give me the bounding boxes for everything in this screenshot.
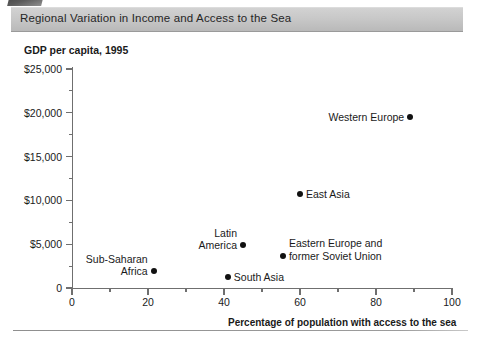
x-tick-label: 20 <box>142 296 154 308</box>
data-point-label: Latin America <box>198 226 237 251</box>
x-tick-major <box>375 288 376 295</box>
x-tick-minor <box>185 288 186 292</box>
x-tick-label: 0 <box>69 296 75 308</box>
data-point-label: Sub-Saharan Africa <box>86 252 148 277</box>
x-tick-label: 40 <box>218 296 230 308</box>
bottom-divider <box>13 330 468 331</box>
y-tick-label: $10,000 <box>24 194 62 206</box>
data-point-label: East Asia <box>306 188 350 201</box>
data-point[interactable] <box>151 268 157 274</box>
x-tick-label: 60 <box>294 296 306 308</box>
y-tick-minor <box>69 266 73 267</box>
x-tick-minor <box>337 288 338 292</box>
y-tick-major <box>66 112 73 113</box>
data-point[interactable] <box>297 191 303 197</box>
x-tick-major <box>147 288 148 295</box>
y-tick-major <box>66 200 73 201</box>
x-tick-major <box>223 288 224 295</box>
y-tick-label: 0 <box>56 282 62 294</box>
x-tick-major <box>71 288 72 295</box>
y-tick-label: $5,000 <box>30 238 62 250</box>
scatter-chart: GDP per capita, 1995 0$5,000$10,000$15,0… <box>0 0 483 344</box>
data-point-label: Eastern Europe and former Soviet Union <box>289 237 382 262</box>
x-tick-major <box>451 288 452 295</box>
y-tick-label: $20,000 <box>24 107 62 119</box>
y-tick-minor <box>69 222 73 223</box>
x-axis-title: Percentage of population with access to … <box>228 317 456 328</box>
x-tick-minor <box>109 288 110 292</box>
y-axis-title: GDP per capita, 1995 <box>24 44 128 56</box>
y-tick-label: $25,000 <box>24 63 62 75</box>
x-tick-minor <box>261 288 262 292</box>
y-tick-label: $15,000 <box>24 151 62 163</box>
data-point[interactable] <box>225 274 231 280</box>
data-point[interactable] <box>280 253 286 259</box>
data-point-label: South Asia <box>234 270 284 283</box>
x-tick-minor <box>413 288 414 292</box>
y-tick-major <box>66 156 73 157</box>
y-tick-major <box>66 244 73 245</box>
y-tick-minor <box>69 90 73 91</box>
x-tick-label: 80 <box>370 296 382 308</box>
data-point[interactable] <box>407 114 413 120</box>
data-point[interactable] <box>240 242 246 248</box>
y-tick-minor <box>69 178 73 179</box>
x-tick-major <box>299 288 300 295</box>
data-point-label: Western Europe <box>329 111 405 124</box>
y-tick-minor <box>69 134 73 135</box>
x-tick-label: 100 <box>443 296 461 308</box>
y-tick-major <box>66 68 73 69</box>
